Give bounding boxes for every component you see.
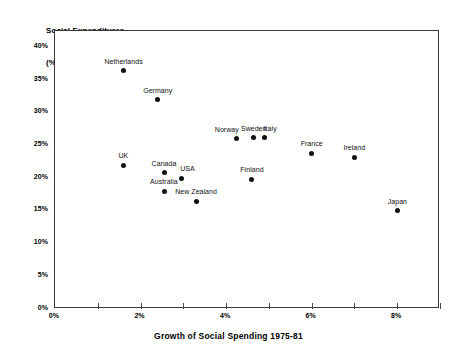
- data-point-label: UK: [118, 152, 128, 159]
- data-point: [234, 136, 239, 141]
- data-point-label: Ireland: [343, 144, 365, 151]
- data-point-label: New Zealand: [175, 188, 217, 195]
- plot-inner: NetherlandsGermanyNorwaySwedenItalyFranc…: [55, 31, 438, 307]
- y-tick-label: 25%: [18, 140, 48, 147]
- data-point: [194, 199, 199, 204]
- data-point-label: Norway: [215, 126, 239, 133]
- x-tick-mark: [440, 303, 441, 309]
- x-tick-label: 0%: [39, 312, 69, 319]
- data-point-label: Italy: [264, 125, 277, 132]
- x-axis-caption: Growth of Social Spending 1975-81: [0, 331, 457, 341]
- x-tick-label: 2%: [125, 312, 155, 319]
- data-point-label: Netherlands: [104, 58, 142, 65]
- data-point-label: Finland: [240, 166, 263, 173]
- x-tick-mark: [269, 303, 270, 309]
- x-tick-mark: [141, 303, 142, 309]
- x-tick-label: 8%: [381, 312, 411, 319]
- x-tick-mark: [226, 303, 227, 309]
- data-point: [155, 97, 160, 102]
- y-tick-label: 5%: [18, 271, 48, 278]
- y-tick-label: 35%: [18, 75, 48, 82]
- x-tick-mark: [354, 303, 355, 309]
- data-point-label: Australia: [150, 178, 178, 185]
- x-tick-label: 6%: [296, 312, 326, 319]
- data-point: [121, 163, 126, 168]
- data-point-label: France: [301, 140, 323, 147]
- data-point: [309, 151, 314, 156]
- x-tick-mark: [312, 303, 313, 309]
- x-tick-mark: [397, 303, 398, 309]
- data-point-label: Canada: [152, 160, 177, 167]
- data-point: [121, 68, 126, 73]
- data-point: [162, 189, 167, 194]
- data-point: [249, 177, 254, 182]
- data-point: [262, 135, 267, 140]
- y-tick-label: 20%: [18, 173, 48, 180]
- y-tick-label: 15%: [18, 205, 48, 212]
- data-point: [251, 135, 256, 140]
- x-tick-label: 4%: [210, 312, 240, 319]
- data-point: [179, 176, 184, 181]
- y-tick-label: 10%: [18, 238, 48, 245]
- x-tick-mark: [183, 303, 184, 309]
- plot-area: NetherlandsGermanyNorwaySwedenItalyFranc…: [54, 30, 439, 308]
- data-point-label: Germany: [143, 87, 172, 94]
- data-point: [352, 155, 357, 160]
- y-tick-label: 0%: [18, 304, 48, 311]
- y-tick-label: 40%: [18, 42, 48, 49]
- data-point-label: USA: [180, 165, 195, 172]
- data-point: [162, 170, 167, 175]
- y-tick-label: 30%: [18, 107, 48, 114]
- data-point: [395, 208, 400, 213]
- data-point-label: Japan: [388, 198, 407, 205]
- x-tick-mark: [98, 303, 99, 309]
